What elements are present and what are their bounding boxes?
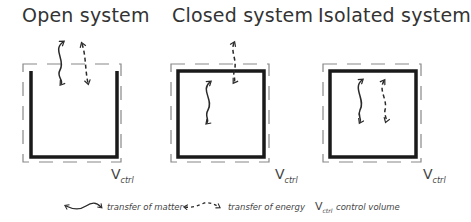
matter-transfer-icon: [59, 42, 63, 84]
control-volume-boundary: [23, 64, 121, 162]
energy-transfer-icon: [382, 81, 386, 121]
legend-matter-icon: [66, 203, 101, 209]
volume-subscript: ctrl: [121, 176, 134, 185]
volume-subscript: ctrl: [285, 176, 298, 185]
control-volume-boundary: [323, 64, 421, 162]
legend-matter-label: transfer of matter: [107, 202, 183, 212]
open-system: [23, 42, 121, 162]
isolated-container-wall: [330, 71, 416, 157]
legend-volume-label: control volume: [336, 202, 400, 212]
closed-volume-label: Vctrl: [275, 166, 298, 185]
energy-transfer-icon: [233, 43, 235, 82]
legend-energy-label: transfer of energy: [228, 202, 305, 212]
legend-energy-icon: [185, 203, 219, 208]
volume-subscript: ctrl: [323, 207, 333, 214]
closed-system: [171, 43, 269, 162]
volume-symbol: V: [315, 200, 323, 213]
volume-symbol: V: [275, 166, 285, 182]
open-container-wall: [31, 71, 117, 157]
volume-symbol: V: [111, 166, 121, 182]
isolated-volume-label: Vctrl: [423, 166, 446, 185]
matter-transfer-icon: [206, 82, 210, 123]
volume-symbol: V: [423, 166, 433, 182]
closed-container-wall: [178, 71, 264, 157]
isolated-system: [323, 64, 421, 162]
legend-volume-symbol: Vctrl: [315, 200, 332, 214]
matter-transfer-icon: [358, 80, 362, 122]
open-volume-label: Vctrl: [111, 166, 134, 185]
control-volume-boundary: [171, 64, 269, 162]
volume-subscript: ctrl: [433, 176, 446, 185]
